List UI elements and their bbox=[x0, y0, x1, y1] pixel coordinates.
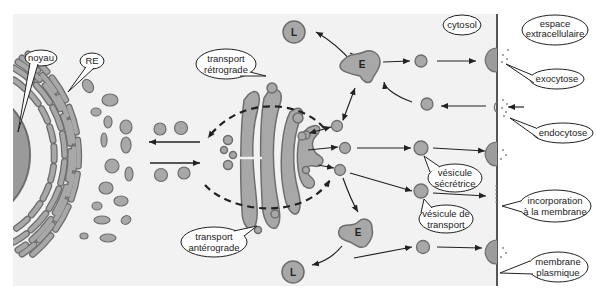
label-espace-2: extracellulaire bbox=[522, 29, 588, 39]
golgi-apparatus bbox=[221, 83, 323, 234]
label-vesicule-transport-1: vésicule de bbox=[419, 209, 473, 219]
er-golgi-transport bbox=[149, 122, 200, 182]
label-transport-anterograde-2: antérograde bbox=[181, 243, 247, 253]
nucleus-and-er bbox=[0, 54, 133, 258]
label-noyau: noyau bbox=[25, 53, 57, 63]
label-re: RE bbox=[80, 56, 104, 66]
label-transport-retrograde-2: rétrograde bbox=[196, 65, 256, 75]
endosome-top-label: E bbox=[359, 59, 366, 70]
label-transport-retrograde-1: transport bbox=[196, 54, 256, 64]
label-vesicule-transport-2: transport bbox=[419, 220, 473, 230]
secretory-pathway-diagram: E E L L bbox=[0, 0, 597, 300]
endosome-bottom-label: E bbox=[355, 227, 362, 238]
diagram-graphics: E E L L bbox=[0, 0, 597, 300]
label-membrane-2: plasmique bbox=[528, 268, 588, 278]
label-vesicule-secretrice-2: sécrétrice bbox=[428, 179, 482, 189]
lysosome-top-label: L bbox=[291, 27, 297, 38]
label-endocytose: endocytose bbox=[533, 128, 593, 138]
lysosome-bottom-label: L bbox=[290, 267, 296, 278]
label-incorporation-1: incorporation bbox=[519, 196, 591, 206]
label-cytosol: cytosol bbox=[443, 20, 481, 30]
label-incorporation-2: à la membrane bbox=[519, 207, 591, 217]
plasma-membrane bbox=[485, 14, 524, 286]
label-exocytose: exocytose bbox=[530, 74, 584, 84]
label-transport-anterograde-1: transport bbox=[181, 232, 247, 242]
label-vesicule-secretrice-1: vésicule bbox=[428, 168, 482, 178]
label-membrane-1: membrane bbox=[528, 257, 588, 267]
